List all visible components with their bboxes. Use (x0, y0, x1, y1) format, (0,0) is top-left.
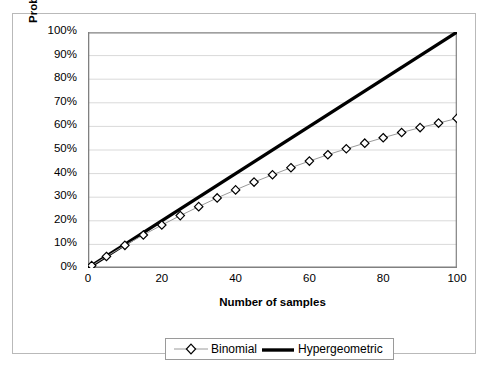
plot-area: 0%10%20%30%40%50%60%70%80%90%100% 020406… (88, 32, 457, 268)
chart-frame: Probability of one or more positive 0%10… (12, 13, 476, 354)
legend-item-hypergeometric: Hypergeometric (261, 342, 383, 356)
x-tick-label: 20 (142, 272, 182, 284)
data-point-binomial (268, 171, 276, 179)
data-point-binomial (379, 134, 387, 142)
legend-marker-line-icon (261, 342, 295, 356)
y-tick-label: 100% (31, 24, 77, 36)
data-point-binomial (250, 178, 258, 186)
y-tick-label: 20% (31, 213, 77, 225)
y-tick-label: 10% (31, 236, 77, 248)
y-tick-label: 90% (31, 48, 77, 60)
legend-marker-diamond-icon (174, 342, 208, 356)
data-point-binomial (342, 145, 350, 153)
y-tick-label: 30% (31, 189, 77, 201)
data-point-binomial (213, 194, 221, 202)
chart-legend: Binomial Hypergeometric (165, 338, 394, 360)
data-point-binomial (287, 164, 295, 172)
data-point-binomial (397, 128, 405, 136)
x-tick-label: 40 (216, 272, 256, 284)
plot-canvas (88, 32, 457, 268)
data-point-binomial (453, 114, 457, 122)
x-tick-label: 80 (363, 272, 403, 284)
x-tick-label: 60 (289, 272, 329, 284)
x-tick-label: 100 (437, 272, 477, 284)
y-tick-label: 0% (31, 260, 77, 272)
series-markers-binomial (88, 114, 457, 268)
x-tick-label: 0 (68, 272, 108, 284)
y-tick-label: 50% (31, 142, 77, 154)
legend-label-hypergeometric: Hypergeometric (298, 342, 383, 356)
data-point-binomial (231, 186, 239, 194)
data-point-binomial (195, 202, 203, 210)
legend-label-binomial: Binomial (211, 342, 257, 356)
y-tick-label: 40% (31, 166, 77, 178)
y-tick-label: 70% (31, 95, 77, 107)
data-point-binomial (361, 139, 369, 147)
series-line-binomial (92, 118, 457, 265)
y-tick-label: 60% (31, 118, 77, 130)
legend-item-binomial: Binomial (174, 342, 257, 356)
y-axis-title: Probability of one or more positive (27, 0, 43, 46)
data-point-binomial (416, 123, 424, 131)
data-point-binomial (305, 157, 313, 165)
data-point-binomial (324, 151, 332, 159)
x-axis-title: Number of samples (88, 296, 457, 308)
y-tick-label: 80% (31, 71, 77, 83)
